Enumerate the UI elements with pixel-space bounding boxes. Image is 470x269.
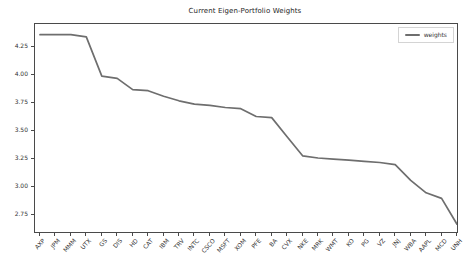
x-tick-mark [410, 233, 411, 236]
legend-line-icon [405, 34, 420, 36]
figure: Current Eigen-Portfolio Weights weights … [0, 0, 470, 269]
x-tick-mark [425, 233, 426, 236]
x-tick-mark [302, 233, 303, 236]
x-tick-mark [54, 233, 55, 236]
y-tick-mark [31, 130, 34, 131]
x-tick-mark [271, 233, 272, 236]
x-tick-mark [116, 233, 117, 236]
y-tick-mark [31, 102, 34, 103]
weights-line-chart [35, 24, 457, 232]
x-tick-mark [317, 233, 318, 236]
y-tick-label: 4.25 [0, 42, 28, 50]
x-tick-mark [163, 233, 164, 236]
y-tick-label: 2.75 [0, 210, 28, 218]
y-tick-label: 3.50 [0, 126, 28, 134]
x-tick-mark [456, 233, 457, 236]
y-tick-label: 4.00 [0, 70, 28, 78]
y-tick-mark [31, 46, 34, 47]
x-tick-mark [178, 233, 179, 236]
x-tick-mark [132, 233, 133, 236]
y-tick-label: 3.75 [0, 98, 28, 106]
legend-label: weights [424, 32, 447, 38]
x-tick-mark [394, 233, 395, 236]
x-tick-mark [240, 233, 241, 236]
weights-series-line [40, 35, 457, 225]
y-tick-mark [31, 186, 34, 187]
x-tick-mark [70, 233, 71, 236]
x-tick-mark [332, 233, 333, 236]
x-tick-mark [348, 233, 349, 236]
x-tick-mark [363, 233, 364, 236]
x-tick-mark [286, 233, 287, 236]
y-tick-mark [31, 158, 34, 159]
y-tick-label: 3.00 [0, 182, 28, 190]
chart-title: Current Eigen-Portfolio Weights [34, 7, 456, 15]
y-tick-mark [31, 74, 34, 75]
legend: weights [398, 27, 454, 43]
x-tick-mark [224, 233, 225, 236]
x-tick-mark [209, 233, 210, 236]
x-tick-mark [441, 233, 442, 236]
x-tick-mark [147, 233, 148, 236]
x-tick-mark [85, 233, 86, 236]
x-tick-mark [193, 233, 194, 236]
x-tick-mark [379, 233, 380, 236]
x-tick-mark [101, 233, 102, 236]
y-tick-mark [31, 214, 34, 215]
x-tick-mark [39, 233, 40, 236]
plot-area: weights [34, 23, 458, 233]
y-tick-label: 3.25 [0, 154, 28, 162]
x-tick-mark [255, 233, 256, 236]
